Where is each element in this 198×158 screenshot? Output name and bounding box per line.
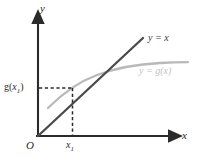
origin-label: O	[26, 140, 34, 151]
y-axis-label: y	[40, 3, 45, 14]
math-figure: y x O x1 g(x1) y = x y = g(x)	[0, 0, 198, 158]
x-axis-label: x	[182, 130, 187, 141]
line-y-equals-x	[38, 38, 143, 136]
g-of-x1-suffix: )	[20, 81, 23, 92]
x1-tick-label: x1	[66, 140, 74, 153]
x1-tick-subscript: 1	[70, 145, 74, 153]
figure-canvas	[0, 0, 198, 158]
curve-y-equals-g-of-x-label: y = g(x)	[139, 66, 171, 76]
line-y-equals-x-label: y = x	[148, 33, 169, 43]
g-of-x1-value-label: g(x1)	[4, 82, 24, 95]
